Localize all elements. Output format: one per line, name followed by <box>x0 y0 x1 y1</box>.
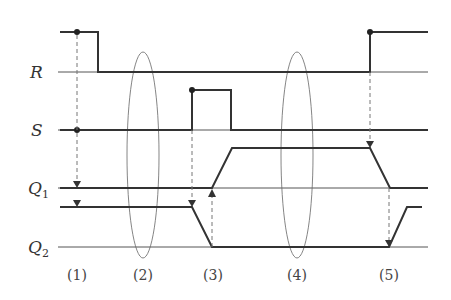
s-rise-dot <box>189 87 195 93</box>
phase-label-3: (3) <box>203 267 223 283</box>
svg-text:1: 1 <box>42 188 49 201</box>
phase-label-1: (1) <box>67 267 87 283</box>
phase-label-2: (2) <box>133 267 153 283</box>
arrow-head-down-icon <box>73 200 81 207</box>
svg-text:2: 2 <box>42 247 49 260</box>
svg-text:Q: Q <box>28 178 42 198</box>
s-waveform <box>60 90 428 130</box>
phase-4-oval <box>281 52 313 258</box>
q2-waveform <box>60 207 422 247</box>
label-q2: Q 2 <box>28 237 49 260</box>
arrow-head-down-icon <box>73 181 81 188</box>
r-rise-dot <box>367 29 373 35</box>
arrow-head-down-icon <box>366 141 374 148</box>
phase-label-5: (5) <box>379 267 399 283</box>
svg-text:Q: Q <box>28 237 42 257</box>
phase-label-4: (4) <box>287 267 307 283</box>
arrow-head-down-icon <box>385 240 393 247</box>
phase-2-oval <box>127 52 159 258</box>
sr-latch-timing-diagram: R S Q 1 Q 2 (1) (2) (3) (4) (5) <box>0 0 451 300</box>
r-trigger-dot <box>74 29 80 35</box>
arrow-head-up-icon <box>208 189 216 197</box>
label-s: S <box>31 120 43 140</box>
arrow-head-down-icon <box>188 200 196 207</box>
r-waveform <box>60 32 428 72</box>
label-q1: Q 1 <box>28 178 49 201</box>
q1-waveform <box>60 148 428 188</box>
label-r: R <box>29 62 43 82</box>
